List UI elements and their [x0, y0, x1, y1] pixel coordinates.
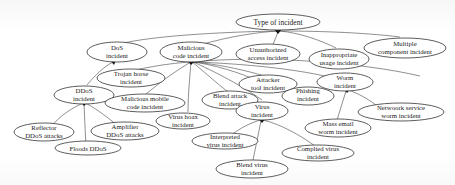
node-label-line1: Multiple: [393, 40, 416, 47]
node-label-line1: Unauthorized: [250, 46, 288, 53]
edge-compiled-virus: [263, 120, 315, 146]
node-label-line1: Trojan horse: [114, 70, 148, 77]
node-label-line1: Interpreted: [210, 133, 240, 140]
node-label-line2: virus incident: [206, 141, 243, 148]
edge-malicious-long: [193, 59, 420, 76]
node-compiled-virus-incident: Complied virus incident: [282, 145, 354, 161]
node-label-line2: DDoS attacks: [25, 132, 63, 139]
node-unauthorized-access-incident: Unauthorized access incident: [236, 44, 300, 64]
node-floods-ddos: Floods DDoS: [55, 141, 121, 155]
edge-blend-attack-malicious: [192, 62, 232, 95]
node-label-line1: DoS: [111, 44, 123, 51]
node-worm-incident: Worm incident: [317, 73, 373, 91]
node-multiple-component-incident: Multiple component incident: [364, 38, 446, 58]
node-label-line2: incident: [172, 121, 194, 128]
node-label-line1: Phishing: [296, 87, 320, 94]
node-phishing-incident: Phishing incident: [282, 87, 334, 105]
node-label-line2: incident: [251, 111, 273, 118]
node-label-line1: Blend attack: [213, 92, 248, 99]
node-label-line2: incident: [219, 100, 241, 107]
node-label-line1: Amplifier: [112, 123, 140, 130]
node-label-line1: Blend virus: [236, 161, 268, 168]
node-label-line2: incident: [297, 95, 319, 102]
node-malicious-mobile-code-incident: Malicious mobile code incident: [105, 94, 185, 112]
node-amplifier-ddos-attacks: Amplifier DDoS attacks: [91, 122, 159, 140]
node-trojan-horse-incident: Trojan horse incident: [97, 69, 165, 87]
node-label-line1: Virus: [255, 103, 270, 110]
node-inappropriate-usage-incident: Inappropriate usage incident: [309, 49, 369, 69]
node-label-line2: incident: [334, 82, 356, 89]
node-label-line2: incident: [73, 95, 95, 102]
node-dos-incident: DoS incident: [87, 42, 147, 62]
node-label-line2: code incident: [127, 103, 164, 110]
node-label-line2: worm incident: [318, 128, 358, 135]
node-mass-email-worm-incident: Mass email worm incident: [305, 119, 371, 137]
node-label-line2: component incident: [378, 48, 432, 55]
node-label-line2: tool incident: [251, 84, 285, 91]
edge-mass-email-worm: [337, 91, 346, 120]
node-label-line1: Malicious: [177, 44, 205, 51]
node-label-line1: Reflector: [31, 124, 57, 131]
node-virus-incident: Virus incident: [236, 102, 288, 120]
node-label-line1: Inappropriate: [321, 51, 358, 58]
node-type-of-incident: Type of incident: [236, 14, 320, 30]
node-label-line1: Complied virus: [297, 145, 339, 152]
node-label-line2: incident: [241, 169, 263, 176]
incident-type-tree-diagram: Type of incident DoS incident Malicious …: [0, 0, 455, 185]
node-label-line2: access incident: [248, 54, 289, 61]
node-label: Floods DDoS: [69, 145, 106, 152]
node-ddos-incident: DDoS incident: [54, 86, 114, 104]
node-label-line1: Malicious mobile: [121, 95, 169, 102]
node-virus-hoax-incident: Virus hoax incident: [156, 113, 210, 129]
edge-virus-hoax-malicious: [188, 62, 191, 112]
node-label-line2: worm incident: [381, 112, 421, 119]
node-label: Type of incident: [253, 18, 303, 27]
node-malicious-code-incident: Malicious code incident: [160, 42, 222, 62]
node-label-line2: code incident: [173, 52, 210, 59]
node-label-line1: Virus hoax: [168, 113, 198, 120]
node-label-line2: incident: [307, 153, 329, 160]
node-label-line1: Attacker: [256, 76, 280, 83]
node-label-line1: Netwoork service: [377, 104, 425, 111]
node-label-line2: incident: [120, 78, 142, 85]
node-label-line2: DDoS attacks: [106, 131, 144, 138]
node-label-line2: incident: [106, 52, 128, 59]
node-interpreted-virus-incident: Interpreted virus incident: [192, 133, 258, 149]
node-label-line1: Worm: [337, 74, 355, 81]
node-label-line1: DDoS: [76, 87, 93, 94]
edge-inappropriate-root: [280, 31, 336, 48]
node-label-line2: usage incident: [319, 59, 358, 66]
node-reflector-ddos-attacks: Reflector DDoS attacks: [14, 123, 74, 141]
node-label-line1: Mass email: [322, 120, 353, 127]
node-blend-virus-incident: Blend virus incident: [216, 160, 288, 178]
node-network-service-worm-incident: Netwoork service worm incident: [358, 103, 444, 121]
